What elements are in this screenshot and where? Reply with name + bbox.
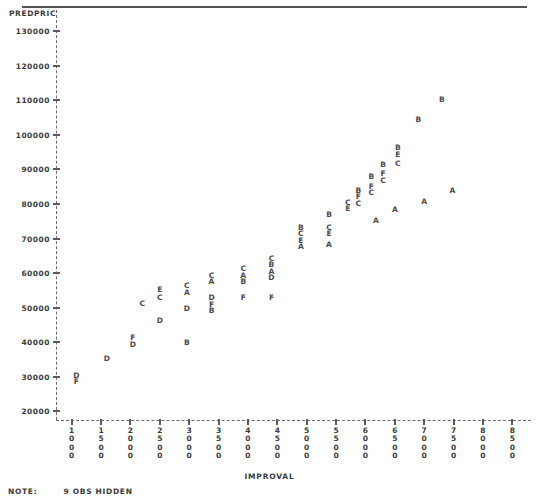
footnote-label: NOTE: xyxy=(8,487,37,496)
y-axis-line xyxy=(56,10,57,420)
data-point: B xyxy=(368,171,374,180)
y-tick-mark xyxy=(53,376,60,378)
data-point: F xyxy=(269,293,274,302)
data-point: A xyxy=(326,239,332,248)
y-tick-label: 30000 xyxy=(4,372,50,381)
footnote: NOTE:9 OBS HIDDEN xyxy=(8,487,133,496)
y-tick-mark xyxy=(53,168,60,170)
data-point: B xyxy=(415,115,421,124)
x-tick-label: 7000 xyxy=(417,427,431,461)
data-point: C xyxy=(395,159,401,168)
x-tick-label: 7500 xyxy=(447,427,461,461)
x-tick-mark xyxy=(394,419,396,425)
data-point: A xyxy=(184,287,190,296)
x-tick-label: 5000 xyxy=(300,427,314,461)
y-tick-mark xyxy=(53,341,60,343)
x-tick-mark xyxy=(188,419,190,425)
header-rule xyxy=(22,6,527,8)
y-tick-label: 70000 xyxy=(4,234,50,243)
data-point: C xyxy=(356,198,362,207)
x-tick-label: 6000 xyxy=(358,427,372,461)
footnote-text: 9 OBS HIDDEN xyxy=(63,487,132,496)
x-tick-mark xyxy=(276,419,278,425)
y-tick-mark xyxy=(53,30,60,32)
y-tick-mark xyxy=(53,238,60,240)
data-point: E xyxy=(395,149,400,158)
y-tick-label: 40000 xyxy=(4,338,50,347)
x-tick-label: 6500 xyxy=(388,427,402,461)
y-tick-mark xyxy=(53,272,60,274)
data-point: A xyxy=(209,277,215,286)
data-point: F xyxy=(74,377,79,386)
data-point: A xyxy=(392,205,398,214)
data-point: B xyxy=(380,159,386,168)
y-tick-mark xyxy=(53,307,60,309)
x-tick-mark xyxy=(159,419,161,425)
data-point: D xyxy=(184,304,190,313)
y-tick-label: 80000 xyxy=(4,200,50,209)
data-point: E xyxy=(345,204,350,213)
y-tick-label: 100000 xyxy=(4,130,50,139)
data-point: C xyxy=(157,293,163,302)
x-tick-mark xyxy=(364,419,366,425)
data-point: B xyxy=(184,337,190,346)
x-tick-label: 8500 xyxy=(505,427,519,461)
y-tick-mark xyxy=(53,203,60,205)
x-tick-label: 3000 xyxy=(182,427,196,461)
x-tick-label: 2500 xyxy=(153,427,167,461)
y-tick-label: 130000 xyxy=(4,27,50,36)
data-point: C xyxy=(380,175,386,184)
y-tick-label: 120000 xyxy=(4,61,50,70)
data-point: B xyxy=(326,209,332,218)
data-point: A xyxy=(421,197,427,206)
y-tick-mark xyxy=(53,65,60,67)
data-point: E xyxy=(326,229,331,238)
y-tick-mark xyxy=(53,410,60,412)
x-tick-mark xyxy=(129,419,131,425)
data-point: B xyxy=(240,277,246,286)
data-point: A xyxy=(373,215,379,224)
y-axis-title: PREDPRIC xyxy=(9,9,56,18)
y-tick-label: 110000 xyxy=(4,96,50,105)
x-tick-mark xyxy=(335,419,337,425)
x-tick-label: 1500 xyxy=(94,427,108,461)
data-point: C xyxy=(139,298,145,307)
data-point: B xyxy=(439,94,445,103)
data-point: D xyxy=(268,273,274,282)
x-tick-label: 8000 xyxy=(476,427,490,461)
data-point: D xyxy=(130,339,136,348)
x-tick-mark xyxy=(100,419,102,425)
x-tick-label: 4500 xyxy=(270,427,284,461)
x-tick-mark xyxy=(482,419,484,425)
x-tick-mark xyxy=(306,419,308,425)
data-point: D xyxy=(157,315,163,324)
x-axis-title: IMPROVAL xyxy=(0,472,539,481)
data-point: F xyxy=(241,293,246,302)
x-tick-label: 3500 xyxy=(212,427,226,461)
x-tick-mark xyxy=(218,419,220,425)
data-point: E xyxy=(157,284,162,293)
data-point: B xyxy=(209,305,215,314)
data-point: A xyxy=(298,242,304,251)
y-tick-label: 50000 xyxy=(4,303,50,312)
data-point: C xyxy=(369,188,375,197)
x-tick-label: 5500 xyxy=(329,427,343,461)
y-tick-mark xyxy=(53,99,60,101)
y-tick-label: 60000 xyxy=(4,269,50,278)
x-tick-mark xyxy=(71,419,73,425)
x-tick-mark xyxy=(453,419,455,425)
x-tick-label: 4000 xyxy=(241,427,255,461)
data-point: A xyxy=(449,186,455,195)
data-point: D xyxy=(104,353,110,362)
x-tick-label: 2000 xyxy=(123,427,137,461)
x-axis-line xyxy=(56,420,531,421)
y-tick-label: 90000 xyxy=(4,165,50,174)
x-tick-mark xyxy=(511,419,513,425)
y-tick-mark xyxy=(53,134,60,136)
scatter-plot: PREDPRIC 2000030000400005000060000700008… xyxy=(0,0,539,502)
x-tick-mark xyxy=(423,419,425,425)
y-tick-label: 20000 xyxy=(4,407,50,416)
x-tick-label: 1000 xyxy=(65,427,79,461)
x-tick-mark xyxy=(247,419,249,425)
